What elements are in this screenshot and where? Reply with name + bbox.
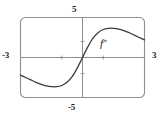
plot-canvas bbox=[0, 0, 164, 118]
x-axis-max-label: 3 bbox=[152, 51, 156, 60]
y-axis-min-label: -5 bbox=[68, 103, 75, 112]
graph-figure: 5 -5 -3 3 f″ bbox=[0, 0, 164, 118]
x-axis-min-label: -3 bbox=[2, 51, 9, 60]
curve-annotation-prime: ″ bbox=[103, 38, 107, 49]
y-axis-max-label: 5 bbox=[72, 5, 76, 14]
curve-annotation: f″ bbox=[100, 38, 107, 49]
